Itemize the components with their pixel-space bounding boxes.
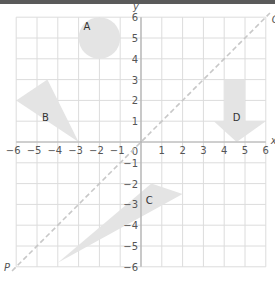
svg-text:−6: −6 — [6, 145, 21, 156]
svg-text:6: 6 — [132, 12, 138, 23]
svg-text:2: 2 — [132, 95, 138, 106]
shape-label-a: A — [83, 21, 90, 32]
shape-b: B — [16, 80, 78, 142]
svg-text:3: 3 — [132, 75, 138, 86]
svg-text:2: 2 — [179, 145, 185, 156]
svg-text:4: 4 — [132, 54, 138, 65]
shape-label-b: B — [42, 112, 49, 123]
svg-text:−6: −6 — [123, 262, 138, 273]
svg-text:−4: −4 — [123, 220, 138, 231]
svg-text:−2: −2 — [89, 145, 104, 156]
svg-text:1: 1 — [159, 145, 165, 156]
shape-d: D — [214, 80, 266, 142]
svg-text:−4: −4 — [47, 145, 62, 156]
shape-label-d: D — [233, 112, 241, 123]
y-axis-label: y — [132, 1, 140, 12]
svg-text:−5: −5 — [123, 241, 138, 252]
svg-text:5: 5 — [242, 145, 248, 156]
svg-text:6: 6 — [263, 145, 269, 156]
svg-text:−3: −3 — [68, 145, 83, 156]
svg-text:−3: −3 — [123, 199, 138, 210]
svg-text:1: 1 — [132, 116, 138, 127]
svg-text:5: 5 — [132, 33, 138, 44]
svg-text:−1: −1 — [110, 145, 125, 156]
x-axis-label: x — [270, 135, 275, 146]
svg-text:−2: −2 — [123, 179, 138, 190]
svg-text:4: 4 — [221, 145, 227, 156]
coordinate-grid-diagram: ABCD −6−5−4−3−2−11234566543210−1−2−3−4−5… — [0, 0, 275, 288]
svg-text:−5: −5 — [27, 145, 42, 156]
svg-text:−1: −1 — [123, 158, 138, 169]
point-p-label: P — [4, 262, 11, 273]
svg-text:3: 3 — [200, 145, 206, 156]
shape-a: A — [79, 17, 121, 59]
point-q-label: Q — [272, 14, 275, 25]
shape-label-c: C — [146, 195, 153, 206]
